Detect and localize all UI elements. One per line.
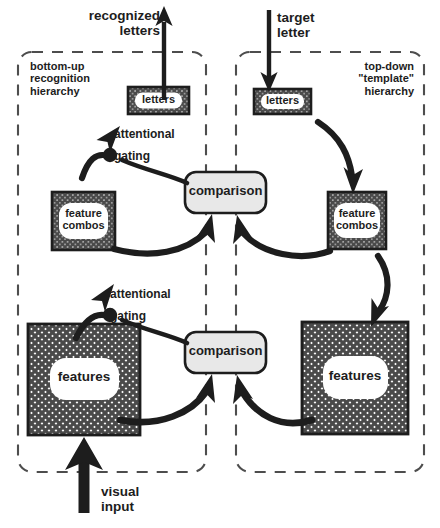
label-attentional-upper: attentional bbox=[114, 128, 175, 141]
arrow-letters-to-combos-right bbox=[318, 122, 363, 194]
node-comparison-lower bbox=[185, 332, 266, 373]
label-attentional-lower: attentional bbox=[110, 288, 171, 301]
node-feature-combos-left bbox=[52, 192, 115, 250]
node-features-right bbox=[302, 322, 408, 434]
label-recognized-letters: recognized letters bbox=[76, 8, 160, 38]
node-letters-right bbox=[254, 89, 311, 114]
arrow-combos-to-features-right bbox=[371, 256, 389, 327]
label-group-top-down: top-down "template" hierarchy bbox=[312, 60, 414, 97]
node-feature-combos-right bbox=[328, 192, 386, 249]
node-comparison-upper bbox=[185, 172, 266, 213]
diagram-canvas: recognized letters target letter visual … bbox=[0, 0, 440, 528]
arrow-features-right-to-comparison-lower bbox=[233, 375, 312, 423]
label-visual-input: visual input bbox=[101, 484, 171, 514]
arrow-combos-right-to-comparison-upper bbox=[233, 215, 330, 256]
label-group-bottom-up: bottom-up recognition hierarchy bbox=[30, 60, 126, 97]
label-gating-lower: gating bbox=[110, 310, 146, 323]
arrow-visual-input bbox=[65, 437, 103, 513]
label-gating-upper: gating bbox=[114, 150, 150, 163]
label-target-letter: target letter bbox=[277, 10, 347, 40]
arrow-combos-left-to-comparison-upper bbox=[114, 214, 215, 254]
node-letters-left bbox=[128, 87, 189, 114]
